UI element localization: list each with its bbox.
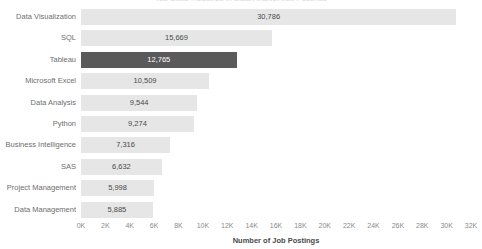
bar-row: Python9,274 [0, 115, 482, 133]
x-axis: 0K2K4K6K8K10K12K14K16K18K20K22K24K26K28K… [0, 222, 482, 234]
x-axis-tick-label: 2K [93, 222, 117, 229]
x-axis-tick-label: 14K [240, 222, 264, 229]
category-label: Tableau [0, 51, 76, 69]
x-axis-tick-label: 16K [264, 222, 288, 229]
bar-row: SQL15,669 [0, 29, 482, 47]
bar-row: Microsoft Excel10,509 [0, 72, 482, 90]
category-label: SAS [0, 158, 76, 176]
x-axis-tick-label: 26K [386, 222, 410, 229]
category-label: SQL [0, 29, 76, 47]
bar-row: Data Management5,885 [0, 201, 482, 219]
bar-value-label: 5,998 [81, 180, 154, 196]
bar-value-label: 7,316 [81, 137, 170, 153]
category-label: Data Analysis [0, 94, 76, 112]
bar-row: Data Visualization30,786 [0, 8, 482, 26]
bar-value-label: 30,786 [81, 9, 456, 25]
bar-value-label: 12,765 [81, 52, 237, 68]
category-label: Microsoft Excel [0, 72, 76, 90]
x-axis-tick-label: 22K [337, 222, 361, 229]
x-axis-tick-label: 18K [288, 222, 312, 229]
bar-value-label: 9,544 [81, 95, 197, 111]
x-axis-tick-label: 0K [69, 222, 93, 229]
bar-row: Data Analysis9,544 [0, 94, 482, 112]
category-label: Project Management [0, 179, 76, 197]
category-label: Data Management [0, 201, 76, 219]
bar-value-label: 10,509 [81, 73, 209, 89]
x-axis-tick-label: 4K [118, 222, 142, 229]
bar-chart-plot-area: Data Visualization30,786SQL15,669Tableau… [0, 0, 482, 249]
bar-row: SAS6,632 [0, 158, 482, 176]
bar-row: Project Management5,998 [0, 179, 482, 197]
bar-value-label: 9,274 [81, 116, 194, 132]
x-axis-tick-label: 8K [167, 222, 191, 229]
x-axis-tick-label: 10K [191, 222, 215, 229]
x-axis-tick-label: 12K [215, 222, 239, 229]
bar-value-label: 15,669 [81, 30, 272, 46]
x-axis-tick-label: 24K [362, 222, 386, 229]
x-axis-tick-label: 30K [435, 222, 459, 229]
category-label: Business Intelligence [0, 136, 76, 154]
x-axis-title: Number of Job Postings [81, 236, 471, 245]
x-axis-tick-label: 20K [313, 222, 337, 229]
bar-row: Tableau12,765 [0, 51, 482, 69]
x-axis-tick-label: 28K [410, 222, 434, 229]
x-axis-tick-label: 32K [459, 222, 482, 229]
bar-row: Business Intelligence7,316 [0, 136, 482, 154]
x-axis-tick-label: 6K [142, 222, 166, 229]
category-label: Python [0, 115, 76, 133]
bar-value-label: 5,885 [81, 202, 153, 218]
category-label: Data Visualization [0, 8, 76, 26]
bar-value-label: 6,632 [81, 159, 162, 175]
